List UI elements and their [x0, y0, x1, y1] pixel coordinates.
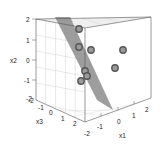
data-point [84, 73, 90, 79]
x1-tick: 0 [117, 118, 121, 125]
data-point [120, 47, 126, 53]
x1-axis-label: x1 [119, 132, 126, 139]
x1-tick: 1 [132, 112, 136, 119]
x1-axis: -2 -1 0 1 2 x1 [84, 101, 149, 139]
x1-tick: -2 [84, 130, 90, 137]
x2-axis-label: x2 [10, 57, 17, 64]
x1-tick: 2 [145, 106, 149, 113]
data-point [112, 65, 118, 71]
x3-axis: -2 -1 0 1 2 x3 [28, 97, 77, 127]
data-point [76, 44, 82, 50]
separating-plane [55, 17, 113, 110]
separating-plane-top [55, 17, 73, 22]
x2-axis: 2 1 0 -1 -2 x2 [10, 16, 36, 102]
x1-tick: -1 [97, 123, 103, 130]
data-point [78, 78, 84, 84]
x3-tick: 2 [73, 120, 77, 127]
x2-tick: 2 [26, 16, 30, 23]
x3-axis-label: x3 [36, 118, 43, 125]
x3-tick: -2 [28, 97, 34, 104]
x3-tick: 1 [61, 115, 65, 122]
x2-tick: 1 [26, 37, 30, 44]
data-point [88, 47, 94, 53]
x2-tick: -1 [24, 77, 30, 84]
x2-tick: 0 [26, 57, 30, 64]
x3-tick: 0 [49, 109, 53, 116]
data-point [76, 26, 82, 32]
scatter3d-plot: 2 1 0 -1 -2 x2 -2 -1 0 1 2 x3 -2 -1 0 1 … [0, 0, 162, 153]
x3-tick: -1 [38, 104, 44, 111]
